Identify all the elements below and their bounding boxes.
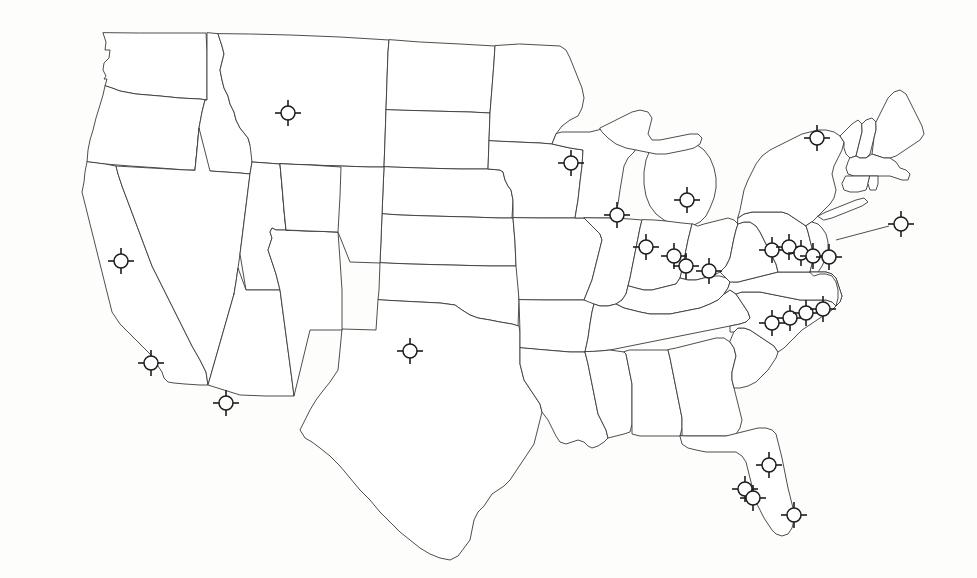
marker-wisconsin-illinois-circle[interactable] <box>610 208 624 222</box>
state-minnesota <box>489 44 584 144</box>
marker-florida-gulf-lower-circle[interactable] <box>746 491 760 505</box>
state-maine <box>872 90 924 158</box>
marker-florida-north-circle[interactable] <box>762 458 776 472</box>
state-nebraska <box>382 167 513 218</box>
leader-offshore-to-delmarva <box>836 226 889 240</box>
marker-minnesota-circle[interactable] <box>564 156 578 170</box>
marker-indiana-west-circle[interactable] <box>667 249 681 263</box>
marker-indiana-east-circle[interactable] <box>679 259 693 273</box>
marker-florida-south-circle[interactable] <box>787 508 801 522</box>
marker-idaho-montana-circle[interactable] <box>281 106 295 120</box>
state-connecticut <box>842 176 870 192</box>
marker-new-jersey-circle[interactable] <box>806 249 820 263</box>
state-rhode-island <box>868 176 878 190</box>
state-oregon <box>87 86 207 170</box>
marker-offshore-atlantic[interactable]: Offshore callout (Atlantic) <box>888 211 914 237</box>
marker-maryland-delaware-circle[interactable] <box>822 250 836 264</box>
leader-lines <box>836 226 889 240</box>
marker-oklahoma-panhandle-circle[interactable] <box>403 344 417 358</box>
us-map-svg: Montana / Idaho borderNevadaSouthern Cal… <box>0 0 977 578</box>
marker-illinois-circle[interactable] <box>639 240 653 254</box>
marker-ohio-south-circle[interactable] <box>702 264 716 278</box>
state-kansas <box>380 214 516 266</box>
state-washington <box>103 33 207 100</box>
marker-pennsylvania-west-circle[interactable] <box>765 243 779 257</box>
marker-nevada-circle[interactable] <box>114 254 128 268</box>
marker-virginia-east-circle[interactable] <box>799 306 813 320</box>
state-arkansas <box>519 300 594 352</box>
marker-arizona-circle[interactable] <box>219 396 233 410</box>
state-florida <box>680 428 794 536</box>
state-outlines <box>82 33 924 560</box>
marker-offshore-atlantic-circle[interactable] <box>894 217 908 231</box>
marker-virginia-coast-circle[interactable] <box>816 302 830 316</box>
marker-upstate-new-york-circle[interactable] <box>810 131 824 145</box>
marker-virginia-west-circle[interactable] <box>765 316 779 330</box>
state-wyoming <box>280 164 341 232</box>
state-north-dakota <box>386 40 495 113</box>
state-texas <box>300 300 542 560</box>
us-map-container: Montana / Idaho borderNevadaSouthern Cal… <box>0 0 977 578</box>
marker-michigan-circle[interactable] <box>680 193 694 207</box>
state-south-dakota <box>384 110 490 169</box>
marker-southern-california-circle[interactable] <box>144 356 158 370</box>
